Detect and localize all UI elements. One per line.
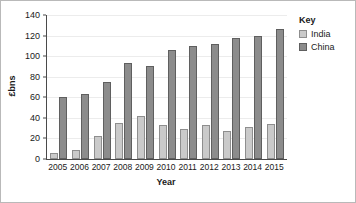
y-axis-tick-label: 0	[35, 154, 40, 164]
bar-group	[91, 15, 113, 159]
x-axis-tick-label: 2011	[177, 160, 199, 174]
bar-india-2007	[94, 136, 102, 159]
bar-india-2008	[115, 123, 123, 159]
x-axis-tick-label: 2015	[263, 160, 285, 174]
bar-china-2005	[59, 97, 67, 159]
y-axis-tick-labels: 020406080100120140	[17, 15, 43, 159]
plot-area	[46, 15, 287, 160]
bar-china-2009	[146, 66, 154, 159]
bar-group	[48, 15, 70, 159]
bar-chart-figure: £bns 020406080100120140 2005200620072008…	[0, 0, 356, 203]
y-axis-tick-label: 40	[30, 113, 40, 123]
bar-india-2010	[159, 125, 167, 159]
legend: Key IndiaChina	[299, 15, 335, 55]
bar-india-2009	[137, 116, 145, 159]
bar-china-2013	[232, 38, 240, 159]
bar-china-2014	[254, 36, 262, 159]
x-axis-tick-label: 2014	[242, 160, 264, 174]
bar-china-2011	[189, 46, 197, 159]
x-axis-tick-label: 2007	[90, 160, 112, 174]
bar-group	[113, 15, 135, 159]
bar-china-2012	[211, 44, 219, 159]
legend-item-india: India	[299, 29, 335, 39]
bar-india-2015	[267, 124, 275, 159]
bar-group	[156, 15, 178, 159]
x-axis-tick-label: 2012	[198, 160, 220, 174]
y-axis-tick-label: 100	[25, 51, 40, 61]
bar-group	[264, 15, 286, 159]
x-axis-tick-label: 2005	[47, 160, 69, 174]
bar-china-2010	[168, 50, 176, 159]
legend-item-label: India	[311, 29, 331, 39]
y-axis-tick-label: 140	[25, 10, 40, 20]
bar-india-2011	[180, 129, 188, 159]
bar-groups	[47, 15, 287, 159]
legend-title: Key	[299, 15, 335, 25]
legend-swatch-icon	[299, 43, 307, 51]
bar-group	[243, 15, 265, 159]
x-axis-tick-label: 2006	[69, 160, 91, 174]
y-axis-tick-label: 120	[25, 31, 40, 41]
bar-india-2013	[223, 131, 231, 159]
y-axis-tick-label: 80	[30, 72, 40, 82]
legend-item-china: China	[299, 42, 335, 52]
legend-item-label: China	[311, 42, 335, 52]
y-axis-title-text: £bns	[6, 75, 16, 96]
x-axis-tick-label: 2010	[155, 160, 177, 174]
legend-swatch-icon	[299, 30, 307, 38]
bar-group	[178, 15, 200, 159]
x-axis-title: Year	[46, 177, 286, 187]
bar-group	[70, 15, 92, 159]
bar-group	[135, 15, 157, 159]
bar-china-2015	[276, 29, 284, 159]
bar-china-2007	[103, 82, 111, 159]
x-axis-tick-labels: 2005200620072008200920102011201220132014…	[46, 160, 286, 174]
bar-india-2005	[50, 153, 58, 159]
bar-india-2014	[245, 127, 253, 159]
bar-china-2008	[124, 63, 132, 159]
y-axis-tick-label: 60	[30, 92, 40, 102]
x-axis-tick-label: 2009	[134, 160, 156, 174]
bar-india-2006	[72, 150, 80, 159]
bar-group	[221, 15, 243, 159]
bar-china-2006	[81, 94, 89, 159]
bar-india-2012	[202, 125, 210, 159]
x-axis-tick-label: 2013	[220, 160, 242, 174]
x-axis-tick-label: 2008	[112, 160, 134, 174]
legend-items: IndiaChina	[299, 29, 335, 52]
y-axis-tick-label: 20	[30, 133, 40, 143]
bar-group	[199, 15, 221, 159]
